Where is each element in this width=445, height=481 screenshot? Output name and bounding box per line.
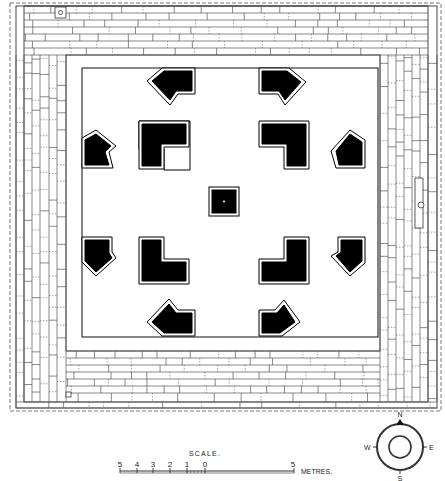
central-pillar	[209, 187, 239, 216]
compass-west-label: W	[364, 444, 371, 451]
scale-title: SCALE.	[189, 450, 221, 457]
site-plan-drawing: SCALE. 5 4 3 2 1 0 5 METRES. N S E W	[0, 0, 445, 481]
scale-tick-label: 1	[185, 460, 190, 469]
scale-unit: METRES.	[301, 468, 332, 475]
top-brick-pavement	[24, 6, 428, 55]
scale-tick-label: 0	[203, 460, 208, 469]
right-wall-circle-marker	[415, 178, 424, 228]
scale-bar: SCALE. 5 4 3 2 1 0 5 METRES.	[118, 450, 332, 475]
bottom-left-square-marker	[66, 392, 71, 397]
scale-tick-label: 5	[118, 460, 123, 469]
compass-north-label: N	[397, 411, 402, 418]
scale-tick-label: 3	[151, 460, 156, 469]
scale-tick-label: 4	[135, 460, 140, 469]
north-arrow-icon	[396, 419, 404, 425]
compass-rose: N S E W	[364, 411, 434, 481]
top-left-square-marker	[55, 7, 66, 18]
compass-south-label: S	[398, 475, 403, 481]
right-brick-pavement	[380, 55, 437, 402]
scale-tick-label: 2	[168, 460, 173, 469]
bottom-brick-pavement	[16, 351, 437, 408]
scale-end-label: 5	[291, 460, 296, 469]
compass-east-label: E	[429, 444, 434, 451]
left-brick-pavement	[16, 55, 66, 402]
